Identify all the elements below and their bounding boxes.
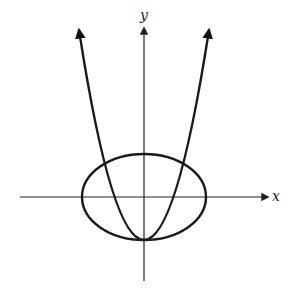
y-axis-label: y xyxy=(139,7,149,23)
diagram-canvas: y x xyxy=(0,0,303,291)
x-axis-label: x xyxy=(272,188,280,204)
diagram-svg: y x xyxy=(0,0,303,291)
